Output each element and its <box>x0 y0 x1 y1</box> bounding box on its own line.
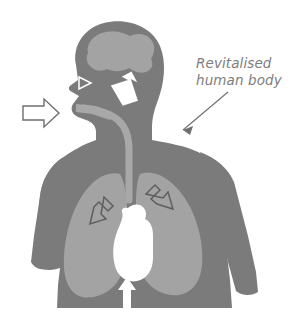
annotation-leader-line <box>183 92 228 135</box>
human-body-diagram <box>0 0 304 335</box>
annotation-label: Revitalised human body <box>196 55 300 88</box>
inhale-mouth-arrow <box>23 99 59 127</box>
brain-shape <box>87 31 155 72</box>
figure-canvas: Revitalised human body <box>0 0 304 335</box>
